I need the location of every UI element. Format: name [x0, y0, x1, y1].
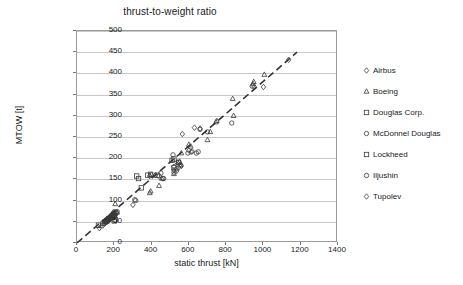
circle-marker-icon — [362, 170, 371, 181]
x-tick-label: 200 — [93, 246, 133, 254]
y-tick-label: 250 — [82, 132, 122, 140]
chart-title: thrust-to-weight ratio — [0, 6, 340, 17]
data-point — [157, 183, 162, 187]
legend-item-airbus[interactable]: Airbus — [362, 60, 462, 81]
y-tick-mark — [73, 94, 76, 95]
triangle-marker-icon — [362, 86, 371, 97]
x-tick-mark — [76, 242, 77, 245]
legend-item-lockheed[interactable]: Lockheed — [362, 144, 462, 165]
square-marker-icon — [362, 107, 371, 118]
chart-container: thrust-to-weight ratio 05010015020025030… — [0, 0, 463, 285]
y-tick-mark — [73, 51, 76, 52]
legend-item-tupolev[interactable]: Tupolev — [362, 186, 462, 207]
series-boeing — [99, 72, 267, 228]
data-point — [131, 202, 136, 208]
legend: AirbusBoeingDouglas Corp.McDonnel Dougla… — [362, 60, 462, 207]
x-tick-label: 0 — [56, 246, 96, 254]
x-tick-label: 1200 — [280, 246, 320, 254]
y-tick-label: 100 — [82, 196, 122, 204]
y-axis-label: MTOW [t] — [14, 70, 24, 180]
x-tick-mark — [151, 242, 152, 245]
data-point — [171, 153, 175, 157]
y-tick-mark — [73, 178, 76, 179]
data-point — [205, 137, 210, 141]
y-tick-label: 150 — [82, 174, 122, 182]
diamond-marker-icon — [362, 65, 371, 76]
y-tick-mark — [73, 115, 76, 116]
data-point — [192, 125, 197, 131]
y-tick-label: 350 — [82, 90, 122, 98]
data-point — [231, 113, 236, 117]
x-tick-label: 600 — [168, 246, 208, 254]
data-point — [262, 72, 267, 76]
data-point — [180, 131, 185, 137]
y-tick-label: 400 — [82, 68, 122, 76]
legend-item-label: Iljushin — [373, 171, 398, 180]
y-tick-label: 200 — [82, 153, 122, 161]
x-tick-label: 400 — [131, 246, 171, 254]
legend-item-iljushin[interactable]: Iljushin — [362, 165, 462, 186]
data-point — [172, 164, 177, 170]
x-tick-mark — [225, 242, 226, 245]
square-marker-icon — [362, 149, 371, 160]
data-point — [230, 96, 235, 100]
circle-marker-icon — [362, 128, 371, 139]
x-tick-mark — [300, 242, 301, 245]
y-tick-mark — [73, 221, 76, 222]
y-tick-label: 50 — [82, 217, 122, 225]
x-tick-mark — [262, 242, 263, 245]
legend-item-label: Airbus — [373, 66, 396, 75]
legend-item-label: Tupolev — [373, 192, 401, 201]
y-tick-mark — [73, 157, 76, 158]
y-tick-label: 500 — [82, 26, 122, 34]
data-point — [230, 121, 234, 125]
y-tick-mark — [73, 136, 76, 137]
legend-item-label: Lockheed — [373, 150, 408, 159]
legend-item-douglas-corp[interactable]: Douglas Corp. — [362, 102, 462, 123]
x-tick-mark — [188, 242, 189, 245]
x-axis-label: static thrust [kN] — [76, 258, 337, 268]
y-tick-mark — [73, 72, 76, 73]
y-tick-label: 450 — [82, 47, 122, 55]
legend-item-boeing[interactable]: Boeing — [362, 81, 462, 102]
x-tick-mark — [113, 242, 114, 245]
y-tick-mark — [73, 30, 76, 31]
x-tick-label: 800 — [205, 246, 245, 254]
y-tick-label: 300 — [82, 111, 122, 119]
diamond-marker-icon — [362, 191, 371, 202]
legend-item-label: Boeing — [373, 87, 398, 96]
legend-item-label: McDonnel Douglas — [373, 129, 441, 138]
x-tick-mark — [337, 242, 338, 245]
data-point — [261, 84, 266, 90]
x-tick-label: 1000 — [242, 246, 282, 254]
x-tick-label: 1400 — [317, 246, 357, 254]
legend-item-label: Douglas Corp. — [373, 108, 424, 117]
legend-item-mcdonnel-douglas[interactable]: McDonnel Douglas — [362, 123, 462, 144]
y-tick-mark — [73, 200, 76, 201]
